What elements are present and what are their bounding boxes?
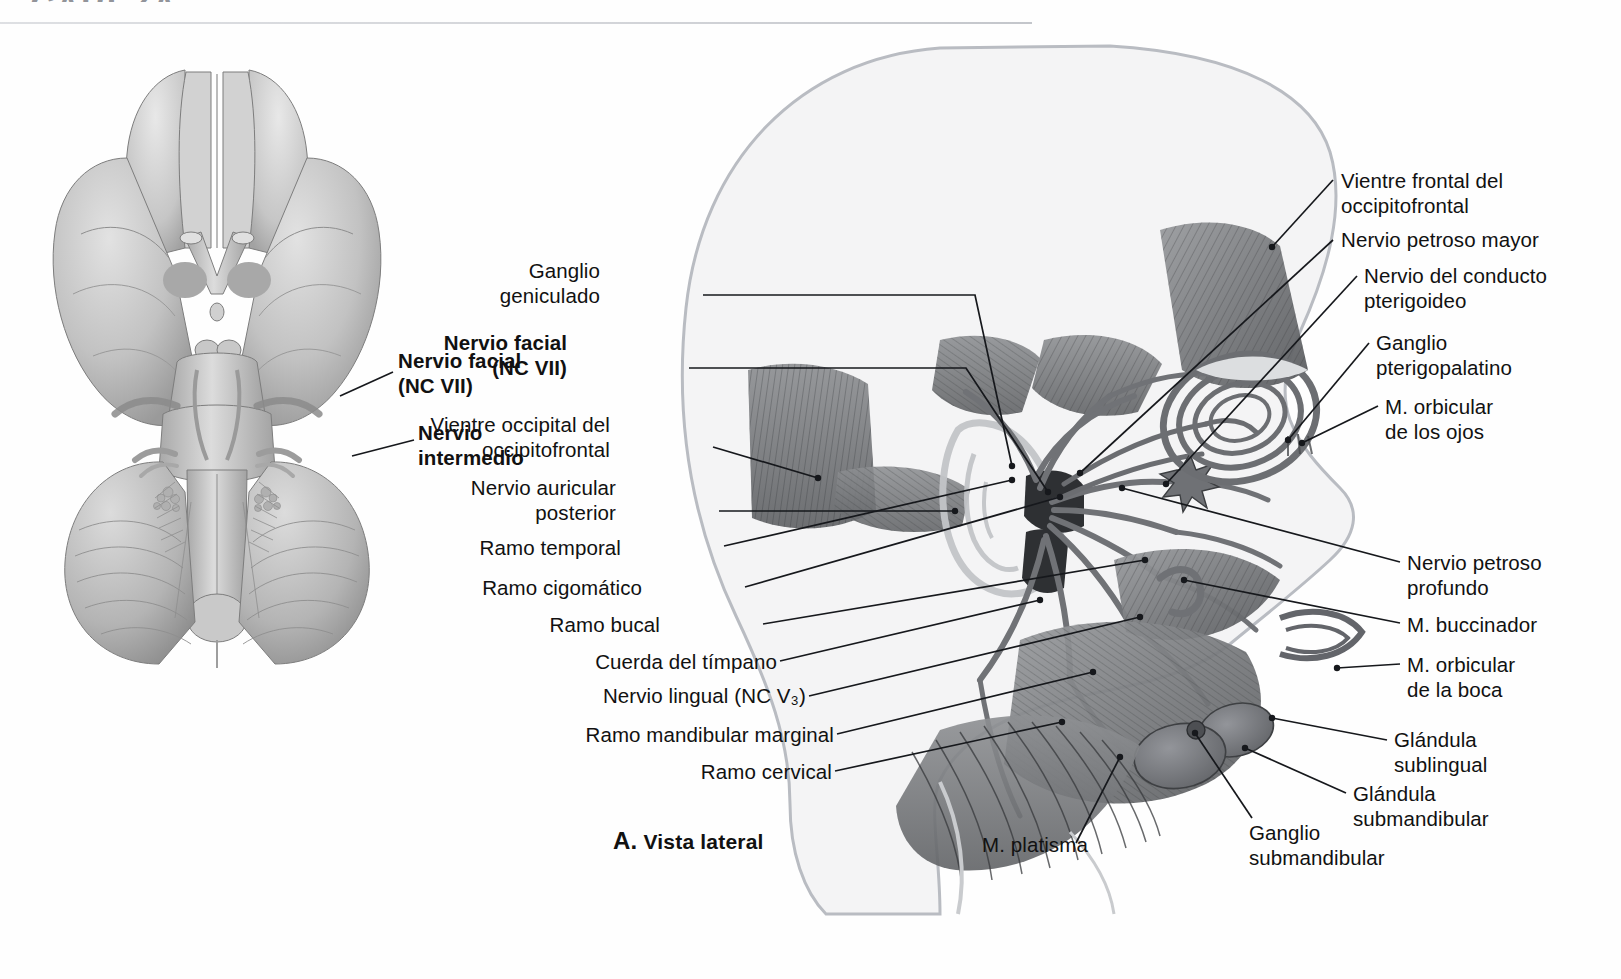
label-ramo-temporal: Ramo temporal bbox=[480, 535, 621, 560]
label-glandula-sublingual: Glándula sublingual bbox=[1394, 727, 1487, 777]
label-ganglio-submandibular: Ganglio submandibular bbox=[1249, 820, 1385, 870]
brain-inferior-view-illustration bbox=[35, 62, 455, 672]
atlas-page: CABEZA bbox=[0, 0, 1621, 979]
label-nervio-facial-nc-vii-lateral: Nervio facial (NC VII) bbox=[444, 330, 567, 380]
label-ramo-cigomatico: Ramo cigomático bbox=[482, 575, 642, 600]
head-lateral-view-illustration bbox=[640, 40, 1430, 920]
label-m-buccinador: M. buccinador bbox=[1407, 612, 1537, 637]
label-ganglio-geniculado: Ganglio geniculado bbox=[500, 258, 600, 308]
label-nervio-petroso-mayor: Nervio petroso mayor bbox=[1341, 227, 1539, 252]
orbicularis-oris bbox=[1280, 612, 1362, 658]
label-m-orbicular-de-la-boca: M. orbicular de la boca bbox=[1407, 652, 1515, 702]
figure-caption: A. Vista lateral bbox=[613, 827, 764, 855]
submandibular-ganglion bbox=[1187, 721, 1205, 739]
caption-letter: A. bbox=[613, 827, 637, 854]
label-nervio-del-conducto-pterigoideo: Nervio del conducto pterigoideo bbox=[1364, 263, 1547, 313]
label-nervio-auricular-posterior: Nervio auricular posterior bbox=[471, 475, 616, 525]
label-cuerda-del-timpano: Cuerda del tímpano bbox=[595, 649, 777, 674]
label-m-orbicular-de-los-ojos: M. orbicular de los ojos bbox=[1385, 394, 1493, 444]
label-ramo-bucal: Ramo bucal bbox=[550, 612, 660, 637]
label-nervio-lingual-nc-v3: Nervio lingual (NC V₃) bbox=[603, 683, 806, 708]
label-nervio-petroso-profundo: Nervio petroso profundo bbox=[1407, 550, 1542, 600]
label-ganglio-pterigopalatino: Ganglio pterigopalatino bbox=[1376, 330, 1512, 380]
label-ramo-cervical: Ramo cervical bbox=[701, 759, 832, 784]
header-rule bbox=[0, 22, 1032, 24]
label-m-platisma: M. platisma bbox=[982, 832, 1088, 857]
caption-text: Vista lateral bbox=[643, 830, 763, 853]
header-fragment: CABEZA bbox=[30, 0, 178, 2]
label-ramo-mandibular-marginal: Ramo mandibular marginal bbox=[585, 722, 834, 747]
label-vientre-frontal-del-occipitofrontal: Vientre frontal del occipitofrontal bbox=[1341, 168, 1503, 218]
label-vientre-occipital-del-occipitofrontal: Vientre occipital del occipitofrontal bbox=[431, 412, 611, 462]
